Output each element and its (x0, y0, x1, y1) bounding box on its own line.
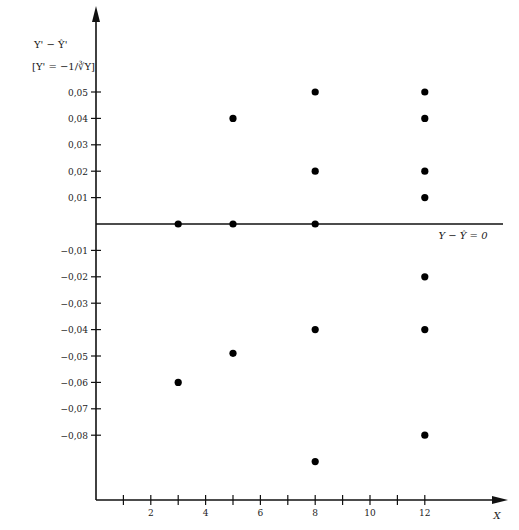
y-tick-label: 0,01 (68, 193, 88, 203)
data-point (421, 273, 428, 280)
x-tick-label: 8 (312, 508, 318, 518)
data-point (312, 88, 319, 95)
y-tick-label: 0,05 (68, 88, 88, 98)
y-tick-label: −0,03 (60, 299, 88, 309)
y-axis-label-line2: [Y' = −1/∛Y] (32, 60, 95, 72)
x-tick-label: 2 (148, 508, 154, 518)
x-tick-label: 6 (258, 508, 264, 518)
data-point (421, 194, 428, 201)
data-point (312, 168, 319, 175)
data-point (421, 168, 428, 175)
data-point (175, 220, 182, 227)
residual-scatter-chart: Y' − Ŷ' [Y' = −1/∛Y] Y − Ŷ = 0 X 2468101… (0, 0, 519, 530)
y-ticks: 0,050,040,030,020,01−0,01−0,02−0,03−0,04… (60, 88, 101, 441)
data-point (421, 115, 428, 122)
data-point (312, 326, 319, 333)
y-tick-label: −0,08 (60, 431, 88, 441)
y-axis-arrow-icon (92, 6, 100, 22)
zero-line-label: Y − Ŷ = 0 (438, 230, 488, 241)
data-point (175, 379, 182, 386)
y-tick-label: 0,04 (68, 114, 88, 124)
data-point (312, 220, 319, 227)
x-tick-label: 4 (203, 508, 209, 518)
data-point (421, 432, 428, 439)
y-tick-label: 0,02 (68, 167, 88, 177)
y-axis-label-line1: Y' − Ŷ' (33, 39, 67, 50)
data-point (421, 326, 428, 333)
y-axis (92, 6, 100, 500)
x-tick-label: 12 (419, 508, 430, 518)
y-tick-label: −0,07 (60, 404, 88, 414)
data-point (421, 88, 428, 95)
data-point (229, 220, 236, 227)
x-axis-label: X (492, 510, 501, 521)
x-axis (96, 496, 508, 504)
data-point (229, 115, 236, 122)
data-points (175, 88, 429, 465)
data-point (312, 458, 319, 465)
y-tick-label: 0,03 (68, 140, 88, 150)
data-point (229, 350, 236, 357)
x-ticks: 24681012 (123, 495, 430, 518)
x-axis-arrow-icon (492, 496, 508, 504)
y-tick-label: −0,02 (60, 272, 88, 282)
y-tick-label: −0,05 (60, 352, 88, 362)
y-tick-label: −0,04 (60, 325, 88, 335)
y-tick-label: −0,06 (60, 378, 88, 388)
x-tick-label: 10 (364, 508, 376, 518)
y-tick-label: −0,01 (60, 246, 88, 256)
